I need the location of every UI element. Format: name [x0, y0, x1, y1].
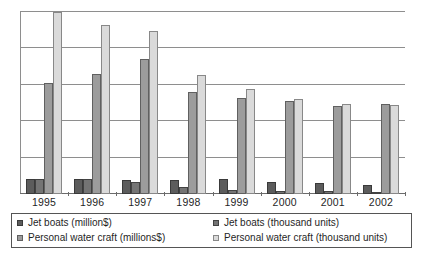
bar — [149, 31, 158, 194]
bar-group-1997 — [122, 12, 158, 194]
legend-entry-label: Personal water craft (millions$) — [28, 233, 165, 243]
bars-layer — [20, 12, 405, 194]
bar-group-1995 — [26, 12, 62, 194]
bar — [381, 104, 390, 194]
bar — [237, 98, 246, 194]
bar-group-2002 — [363, 12, 399, 194]
bar-group-1998 — [170, 12, 206, 194]
legend-entry[interactable]: Personal water craft (millions$) — [17, 233, 207, 243]
bar — [188, 92, 197, 194]
bar — [246, 89, 255, 194]
x-axis-tick-label: 2001 — [309, 196, 357, 208]
bar — [372, 192, 381, 194]
legend-entry-label: Personal water craft (thousand units) — [224, 233, 387, 243]
legend-entry[interactable]: Personal water craft (thousand units) — [207, 233, 407, 243]
legend-swatch-icon — [213, 220, 219, 226]
bar — [170, 180, 179, 194]
bar — [324, 191, 333, 194]
bar — [101, 25, 110, 194]
x-axis-tick-label: 2000 — [261, 196, 309, 208]
bar-group-1996 — [74, 12, 110, 194]
bar — [390, 105, 399, 194]
bar — [131, 182, 140, 194]
bar — [276, 191, 285, 194]
legend-swatch-icon — [17, 235, 23, 241]
bar — [140, 59, 149, 194]
bar — [74, 179, 83, 194]
x-axis-tick-label: 1997 — [116, 196, 164, 208]
x-axis-labels: 19951996199719981999200020012002 — [20, 196, 405, 212]
bar — [197, 75, 206, 194]
plot-area — [20, 12, 405, 194]
bar — [285, 101, 294, 194]
bar-group-2001 — [315, 12, 351, 194]
bar — [315, 183, 324, 194]
legend-swatch-icon — [213, 235, 219, 241]
x-axis-tick-label: 1999 — [213, 196, 261, 208]
x-axis-tick-label: 2002 — [357, 196, 405, 208]
bar — [122, 180, 131, 194]
x-axis-tick-label: 1996 — [68, 196, 116, 208]
bar — [179, 187, 188, 194]
legend-swatch-icon — [17, 220, 23, 226]
bar — [26, 179, 35, 194]
x-axis-tick-mark — [405, 192, 406, 196]
bar — [35, 179, 44, 194]
bar — [228, 190, 237, 194]
bar — [53, 12, 62, 194]
bar — [363, 185, 372, 194]
bar — [342, 104, 351, 194]
legend-entry[interactable]: Jet boats (million$) — [17, 218, 207, 228]
legend-entry-label: Jet boats (million$) — [28, 218, 112, 228]
bar-group-2000 — [267, 12, 303, 194]
legend-grid: Jet boats (million$)Jet boats (thousand … — [12, 214, 411, 247]
legend-entry[interactable]: Jet boats (thousand units) — [207, 218, 407, 228]
bar — [333, 106, 342, 194]
bar — [294, 99, 303, 194]
x-axis-tick-label: 1998 — [164, 196, 212, 208]
bar — [267, 182, 276, 194]
legend-entry-label: Jet boats (thousand units) — [224, 218, 339, 228]
bar — [44, 83, 53, 194]
x-axis-tick-label: 1995 — [20, 196, 68, 208]
bar-group-1999 — [219, 12, 255, 194]
grouped-bar-chart: 19951996199719981999200020012002 Jet boa… — [0, 0, 424, 256]
bar — [92, 74, 101, 194]
bar — [219, 179, 228, 194]
chart-legend: Jet boats (million$)Jet boats (thousand … — [11, 213, 412, 248]
bar — [83, 179, 92, 194]
